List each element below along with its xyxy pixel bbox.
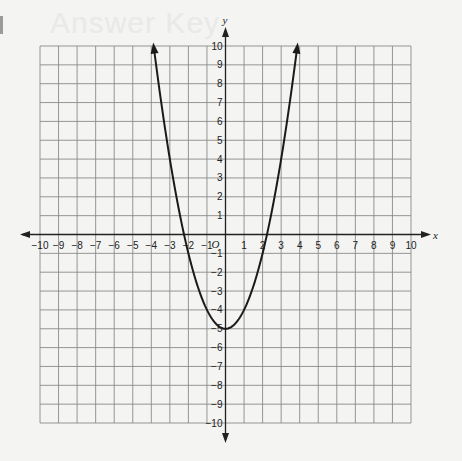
x-tick-label: −9 bbox=[53, 240, 65, 251]
y-tick-label: −9 bbox=[211, 399, 223, 410]
x-tick-label: −5 bbox=[127, 240, 139, 251]
x-tick-label: 6 bbox=[334, 240, 340, 251]
y-tick-label: 3 bbox=[217, 172, 223, 183]
coordinate-plane: −10−9−8−7−6−5−4−3−2−112345678910−10−9−8−… bbox=[0, 0, 462, 461]
y-tick-label: 9 bbox=[217, 59, 223, 70]
x-tick-label: −7 bbox=[90, 240, 102, 251]
y-tick-label: −1 bbox=[211, 248, 223, 259]
y-tick-label: −6 bbox=[211, 342, 223, 353]
y-tick-label: 8 bbox=[217, 78, 223, 89]
y-axis-label: y bbox=[222, 14, 228, 26]
x-tick-label: −2 bbox=[183, 240, 195, 251]
x-tick-label: 9 bbox=[390, 240, 396, 251]
x-tick-label: −10 bbox=[32, 240, 49, 251]
x-tick-label: 7 bbox=[353, 240, 359, 251]
x-tick-label: 8 bbox=[371, 240, 377, 251]
y-tick-label: 7 bbox=[217, 97, 223, 108]
y-tick-label: −3 bbox=[211, 286, 223, 297]
y-tick-label: −7 bbox=[211, 361, 223, 372]
x-tick-label: −4 bbox=[146, 240, 158, 251]
x-tick-label: 5 bbox=[315, 240, 321, 251]
x-tick-label: 4 bbox=[297, 240, 303, 251]
y-tick-label: −10 bbox=[206, 418, 223, 429]
x-tick-label: 1 bbox=[241, 240, 247, 251]
arrowhead-icon bbox=[151, 42, 159, 53]
axes bbox=[20, 27, 431, 443]
y-tick-label: 5 bbox=[217, 135, 223, 146]
y-tick-label: 1 bbox=[217, 210, 223, 221]
y-tick-label: −4 bbox=[211, 304, 223, 315]
x-tick-label: −8 bbox=[71, 240, 83, 251]
x-tick-label: −3 bbox=[164, 240, 176, 251]
y-tick-label: 10 bbox=[211, 41, 223, 52]
y-tick-label: −2 bbox=[211, 267, 223, 278]
y-tick-label: 4 bbox=[217, 154, 223, 165]
y-tick-label: 6 bbox=[217, 116, 223, 127]
y-tick-label: 2 bbox=[217, 191, 223, 202]
x-tick-label: 10 bbox=[405, 240, 417, 251]
x-axis-label: x bbox=[432, 229, 438, 241]
origin-label: O bbox=[212, 238, 220, 250]
x-tick-label: 3 bbox=[278, 240, 284, 251]
y-tick-label: −8 bbox=[211, 380, 223, 391]
arrowhead-icon bbox=[292, 42, 300, 53]
x-tick-label: −6 bbox=[108, 240, 120, 251]
